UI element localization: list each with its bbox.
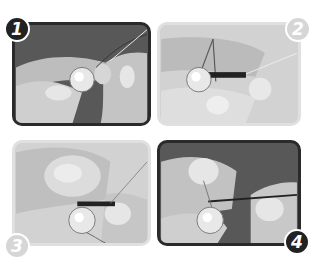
step-badge-2: 2 <box>285 16 309 42</box>
illustration-hands-bead-1 <box>15 25 148 123</box>
panel-step-1 <box>12 22 151 126</box>
illustration-hands-bead-3 <box>15 143 148 243</box>
illustration-hands-bead-2 <box>160 25 298 123</box>
panel-step-3 <box>12 140 151 246</box>
panel-step-4 <box>157 140 301 246</box>
step-badge-1: 1 <box>4 16 30 42</box>
panel-step-2 <box>157 22 301 126</box>
step-badge-3: 3 <box>4 233 30 257</box>
step-badge-4: 4 <box>284 229 309 255</box>
illustration-hands-bead-4 <box>160 143 298 243</box>
